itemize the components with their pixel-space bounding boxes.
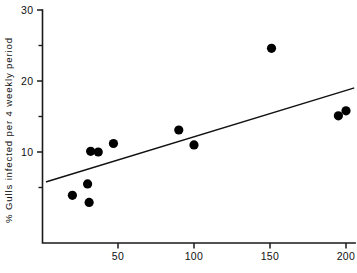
data-point <box>85 198 94 207</box>
data-point <box>174 125 183 134</box>
chart-background <box>0 0 357 273</box>
chart-canvas: 10203050100150200 % Gulls infected per 4… <box>0 0 357 273</box>
y-axis-tick-label: 10 <box>21 146 33 158</box>
data-point <box>94 147 103 156</box>
y-axis-tick-label: 30 <box>21 4 33 16</box>
data-point <box>68 191 77 200</box>
data-point <box>341 106 350 115</box>
y-axis-tick-label: 20 <box>21 75 33 87</box>
x-axis-tick-label: 100 <box>185 250 204 262</box>
data-point <box>334 111 343 120</box>
y-axis-title: % Gulls infected per 4 weekly period <box>3 37 14 223</box>
x-axis-tick-label: 150 <box>261 250 280 262</box>
x-axis-tick-label: 50 <box>112 250 124 262</box>
data-point <box>267 44 276 53</box>
x-axis-tick-label: 200 <box>337 250 356 262</box>
data-point <box>109 139 118 148</box>
data-point <box>189 140 198 149</box>
scatter-chart: 10203050100150200 % Gulls infected per 4… <box>0 0 357 273</box>
data-point <box>83 179 92 188</box>
